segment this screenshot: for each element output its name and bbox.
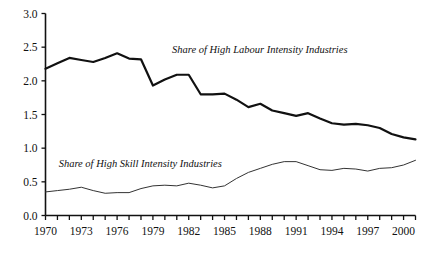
x-tick-label: 1970 xyxy=(34,225,57,237)
x-tick-label: 1976 xyxy=(106,225,129,237)
x-tick-label: 1991 xyxy=(285,225,308,237)
x-tick-label: 1994 xyxy=(320,225,343,237)
x-tick-label: 1997 xyxy=(356,225,379,237)
x-tick-label: 1982 xyxy=(177,225,200,237)
x-tick-label: 1988 xyxy=(249,225,272,237)
x-tick-label: 1985 xyxy=(213,225,236,237)
y-tick-label: 2.0 xyxy=(23,75,38,87)
y-tick-label: 3.0 xyxy=(23,8,38,20)
y-tick-label: 0.0 xyxy=(23,210,38,222)
line-chart: 0.00.51.01.52.02.53.0 197019731976197919… xyxy=(0,0,426,258)
y-tick-label: 1.5 xyxy=(23,109,38,121)
x-tick-label: 2000 xyxy=(392,225,415,237)
y-tick-label: 0.5 xyxy=(23,176,38,188)
annotation-skill-intensity: Share of High Skill Intensity Industries xyxy=(59,158,222,169)
y-tick-label: 2.5 xyxy=(23,41,38,53)
annotation-labour-intensity: Share of High Labour Intensity Industrie… xyxy=(172,44,347,55)
y-tick-label: 1.0 xyxy=(23,142,38,154)
x-tick-label: 1979 xyxy=(141,225,164,237)
chart-container: 0.00.51.01.52.02.53.0 197019731976197919… xyxy=(0,0,426,258)
x-tick-label: 1973 xyxy=(70,225,93,237)
